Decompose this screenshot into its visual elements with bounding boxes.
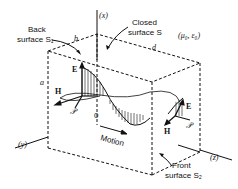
medium-label: (μ₀, ε₀) <box>178 31 200 40</box>
e-vector-left-label: E <box>72 65 77 74</box>
poynting-vector-right-label: 𝒫 <box>186 121 194 130</box>
y-axis-label: (y) <box>18 140 27 149</box>
closed-surface-label-line2: surface S <box>128 28 162 37</box>
h-vector-left-label: H <box>55 87 62 96</box>
front-surface-label-line1: Front <box>172 161 191 170</box>
origin-label: 0 <box>94 111 99 120</box>
em-wave-box-diagram: (x) (y) (z) 0 a b d Back surface S₁ Clos… <box>0 0 238 189</box>
front-surface-pointer <box>161 155 172 166</box>
e-vector-right-label: E <box>186 102 191 111</box>
back-surface-label-line2: surface S₁ <box>17 35 54 44</box>
x-axis-label: (x) <box>99 11 108 20</box>
dimension-a: a <box>40 78 44 87</box>
closed-surface-label-line1: Closed <box>132 18 157 27</box>
closed-surface-box <box>48 34 200 175</box>
motion-label: Motion <box>99 133 125 148</box>
poynting-vector-left-label: 𝒫 <box>70 107 78 116</box>
dimension-b: b <box>74 34 78 43</box>
back-surface-label-line1: Back <box>28 25 47 34</box>
dimension-d: d <box>152 43 157 52</box>
h-vector-right-label: H <box>164 127 171 136</box>
z-axis-label: (z) <box>210 153 219 162</box>
front-surface-label-line2: surface S₂ <box>165 171 202 180</box>
motion-arrow <box>100 126 127 134</box>
